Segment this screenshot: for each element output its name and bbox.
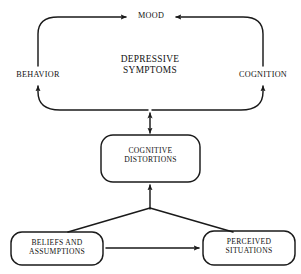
box-beliefs-and-assumptions	[11, 232, 103, 265]
cognitive-behavioral-model-diagram: MOOD BEHAVIOR COGNITION DEPRESSIVE SYMPT…	[0, 0, 301, 274]
box-perceived-situations	[203, 231, 295, 265]
box-cognitive-distortions	[101, 135, 200, 182]
arrow-perceived-to-distortions	[150, 208, 233, 232]
arrow-cycle-to-cognition	[152, 86, 263, 110]
arrow-beliefs-to-distortions	[68, 208, 150, 232]
arrow-cognition-to-mood	[176, 17, 263, 66]
diagram-canvas	[0, 0, 301, 274]
arrow-cycle-to-behavior	[38, 86, 148, 110]
arrow-behavior-to-mood	[38, 17, 126, 66]
